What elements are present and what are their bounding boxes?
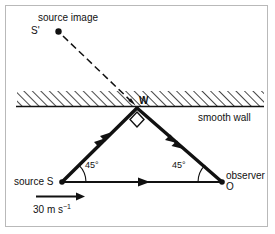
speed-label: 30 m s−1	[33, 203, 71, 215]
observer-dot	[219, 179, 225, 185]
speed-value: 30 m s	[33, 204, 63, 215]
speed-exponent: −1	[63, 203, 71, 210]
observer-label: observer	[226, 171, 265, 181]
velocity-arrow-head	[76, 193, 85, 201]
source-label: source S	[14, 177, 53, 187]
source-image-point-label: S'	[31, 26, 40, 36]
angle-left-label: 45°	[85, 161, 99, 170]
smooth-wall-label: smooth wall	[198, 113, 251, 123]
source-image-dot	[55, 28, 61, 34]
source-image-label: source image	[38, 13, 98, 23]
baseline-arrowhead	[138, 178, 150, 187]
wall-point-label: W	[139, 96, 148, 106]
figure-canvas: source image S' W smooth wall 45° 45° so…	[0, 0, 275, 234]
angle-right-label: 45°	[172, 161, 186, 170]
source-dot	[59, 179, 65, 185]
observer-point-label: O	[226, 182, 234, 192]
